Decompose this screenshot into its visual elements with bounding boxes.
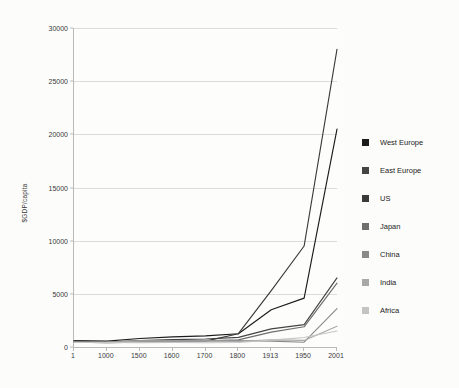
legend-item[interactable]: East Europe <box>362 156 457 184</box>
series-line <box>74 129 337 341</box>
legend-swatch-icon <box>362 195 369 202</box>
legend-label: China <box>380 250 400 259</box>
legend-swatch-icon <box>362 307 369 314</box>
gdp-per-capita-line-chart: $GDP/capita 0500010000150002000025000300… <box>0 0 459 388</box>
x-tick-mark <box>303 348 304 351</box>
x-tick-mark <box>205 348 206 351</box>
plot-area <box>73 28 337 348</box>
series-line <box>74 326 337 342</box>
legend-swatch-icon <box>362 251 369 258</box>
legend: West EuropeEast EuropeUSJapanChinaIndiaA… <box>362 128 457 324</box>
legend-item[interactable]: US <box>362 184 457 212</box>
y-tick-label: 5000 <box>16 290 68 297</box>
legend-item[interactable]: Africa <box>362 296 457 324</box>
x-tick-mark <box>73 348 74 351</box>
x-axis-tick-labels: 110001500160017001800191319502001 <box>73 352 336 368</box>
legend-swatch-icon <box>362 167 369 174</box>
series-line <box>74 49 337 342</box>
y-tick-label: 0 <box>16 344 68 351</box>
y-axis-tick-labels: 050001000015000200002500030000 <box>12 28 68 347</box>
legend-label: West Europe <box>380 138 423 147</box>
y-tick-label: 30000 <box>16 25 68 32</box>
legend-label: East Europe <box>380 166 421 175</box>
x-tick-mark <box>172 348 173 351</box>
x-tick-mark <box>106 348 107 351</box>
legend-label: US <box>380 194 390 203</box>
x-tick-mark <box>139 348 140 351</box>
x-tick-label: 2001 <box>316 352 356 359</box>
x-tick-mark <box>270 348 271 351</box>
legend-item[interactable]: Japan <box>362 212 457 240</box>
y-tick-label: 20000 <box>16 131 68 138</box>
series-line <box>74 283 337 342</box>
y-tick-label: 10000 <box>16 237 68 244</box>
legend-swatch-icon <box>362 223 369 230</box>
series-lines <box>74 28 337 347</box>
legend-swatch-icon <box>362 279 369 286</box>
legend-label: India <box>380 278 396 287</box>
y-tick-label: 15000 <box>16 184 68 191</box>
x-tick-mark <box>237 348 238 351</box>
legend-label: Japan <box>380 222 400 231</box>
x-tick-mark <box>336 348 337 351</box>
legend-swatch-icon <box>362 139 369 146</box>
legend-item[interactable]: China <box>362 240 457 268</box>
y-tick-label: 25000 <box>16 78 68 85</box>
y-axis-tick-marks <box>66 28 73 347</box>
legend-item[interactable]: India <box>362 268 457 296</box>
series-line <box>74 278 337 342</box>
legend-label: Africa <box>380 306 399 315</box>
legend-item[interactable]: West Europe <box>362 128 457 156</box>
